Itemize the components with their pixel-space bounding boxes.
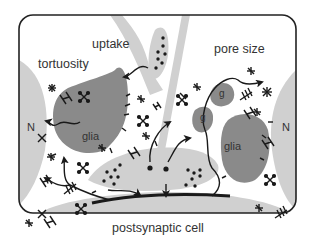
label-g-top: g [219,89,225,99]
label-nucleus-left: N [27,122,35,133]
extracellular-space-diagram: uptake tortuosity pore size glia glia g … [0,0,310,252]
comb-molecule [64,182,76,194]
label-glia-left: glia [82,131,99,142]
label-nucleus-right: N [282,122,290,133]
label-tortuosity: tortuosity [38,58,89,71]
asterisk-molecule [48,84,56,92]
label-pore-size: pore size [214,43,265,56]
label-glia-right: glia [224,141,241,152]
label-uptake: uptake [92,38,130,51]
right-neuron [271,70,296,210]
diagram-canvas [0,0,310,252]
label-postsynaptic-cell: postsynaptic cell [112,222,204,235]
label-g-mid: g [200,113,206,123]
